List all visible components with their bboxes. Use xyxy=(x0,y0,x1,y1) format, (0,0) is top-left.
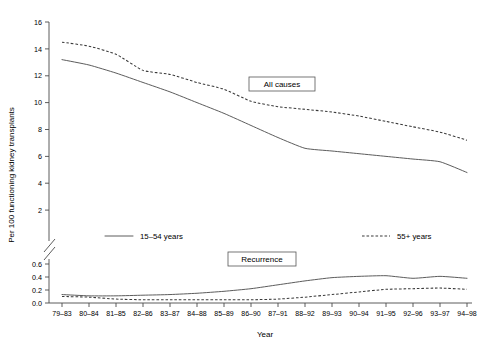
legend-label-55plus: 55+ years xyxy=(397,232,432,241)
x-tick-label: 90–94 xyxy=(349,310,369,317)
series-15-54-all-causes xyxy=(62,60,467,173)
y-tick-label-0-2: 0.2 xyxy=(32,286,42,295)
chart-container: 16 14 12 10 8 6 4 2 0.6 0.4 0.2 xyxy=(0,0,477,355)
y-axis-title: Per 100 functioning kidney transplants xyxy=(7,107,16,243)
upper-panel-series xyxy=(62,42,467,172)
y-tick-label-16: 16 xyxy=(34,18,42,27)
x-tick-label: 86–90 xyxy=(241,310,261,317)
y-axis-upper-ticks: 16 14 12 10 8 6 4 2 xyxy=(34,18,49,215)
x-tick-label: 81–85 xyxy=(106,310,126,317)
y-tick-label-8: 8 xyxy=(38,125,42,134)
x-tick-label: 84–88 xyxy=(187,310,207,317)
y-tick-label-10: 10 xyxy=(34,98,42,107)
legend-label-15-54: 15–54 years xyxy=(140,232,183,241)
y-tick-label-12: 12 xyxy=(34,71,42,80)
y-tick-label-0-6: 0.6 xyxy=(32,260,42,269)
x-axis-tick-labels: 79–83 80–84 81–85 82–86 83–87 84–88 85–8… xyxy=(52,310,477,317)
x-tick-label: 82–86 xyxy=(133,310,153,317)
x-tick-label: 92–96 xyxy=(403,310,423,317)
x-tick-label: 88–92 xyxy=(295,310,315,317)
chart-svg: 16 14 12 10 8 6 4 2 0.6 0.4 0.2 xyxy=(0,0,477,355)
y-tick-label-0-0: 0.0 xyxy=(32,299,42,308)
x-axis-ticks xyxy=(62,303,467,307)
y-axis-lower-ticks: 0.6 0.4 0.2 0.0 xyxy=(32,260,49,308)
series-15-54-recurrence xyxy=(62,276,467,296)
annotation-all-causes: All causes xyxy=(249,77,315,91)
x-tick-label: 89–93 xyxy=(322,310,342,317)
series-55plus-recurrence xyxy=(62,288,467,300)
annotation-recurrence: Recurrence xyxy=(228,252,296,266)
x-tick-label: 93–97 xyxy=(430,310,450,317)
x-tick-label: 94–98 xyxy=(457,310,477,317)
legend-item-55plus: 55+ years xyxy=(362,232,432,241)
x-tick-label: 91–95 xyxy=(376,310,396,317)
x-axis-title: Year xyxy=(257,330,274,339)
legend-item-15-54: 15–54 years xyxy=(105,232,183,241)
annotation-recurrence-label: Recurrence xyxy=(241,255,283,264)
x-tick-label: 85–89 xyxy=(214,310,234,317)
x-tick-label: 83–87 xyxy=(160,310,180,317)
axis-break-icon xyxy=(44,239,55,260)
annotation-all-causes-label: All causes xyxy=(264,80,300,89)
x-tick-label: 80–84 xyxy=(79,310,99,317)
y-tick-label-4: 4 xyxy=(38,179,42,188)
y-tick-label-2: 2 xyxy=(38,206,42,215)
y-tick-label-0-4: 0.4 xyxy=(32,273,42,282)
lower-panel-series xyxy=(62,276,467,300)
y-tick-label-14: 14 xyxy=(34,45,42,54)
y-tick-label-6: 6 xyxy=(38,152,42,161)
x-tick-label: 79–83 xyxy=(52,310,72,317)
x-tick-label: 87–91 xyxy=(268,310,288,317)
